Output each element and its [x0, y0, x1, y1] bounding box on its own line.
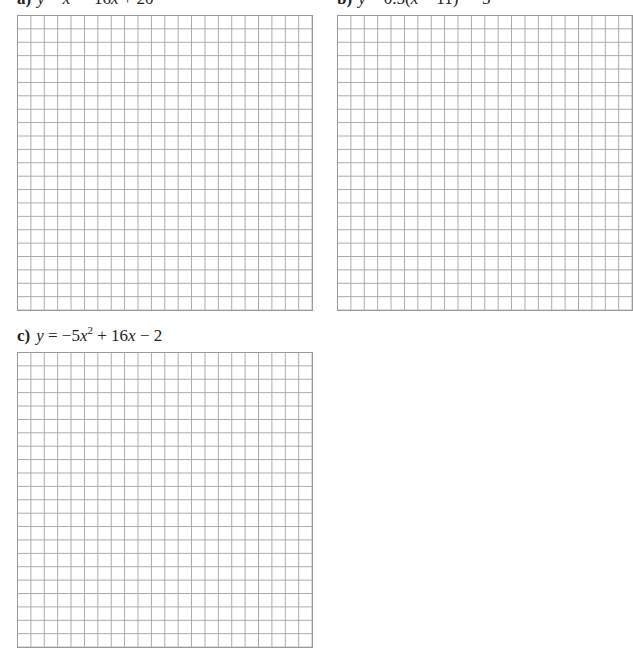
- problem-c-graph-grid: [17, 352, 313, 648]
- problem-c-label: c)y = −5x2 + 16x − 2: [17, 326, 162, 346]
- problem-c-letter: c): [17, 326, 30, 345]
- problem-a-letter: a): [17, 0, 31, 8]
- problem-b-label: b)y = 0.5(x − 11)2 − 5: [337, 0, 490, 9]
- problem-b-graph-grid: [337, 15, 633, 311]
- problem-b-letter: b): [337, 0, 352, 8]
- problem-a-graph-grid: [17, 15, 313, 311]
- problem-a-label: a)y = x2 − 16x + 20: [17, 0, 154, 9]
